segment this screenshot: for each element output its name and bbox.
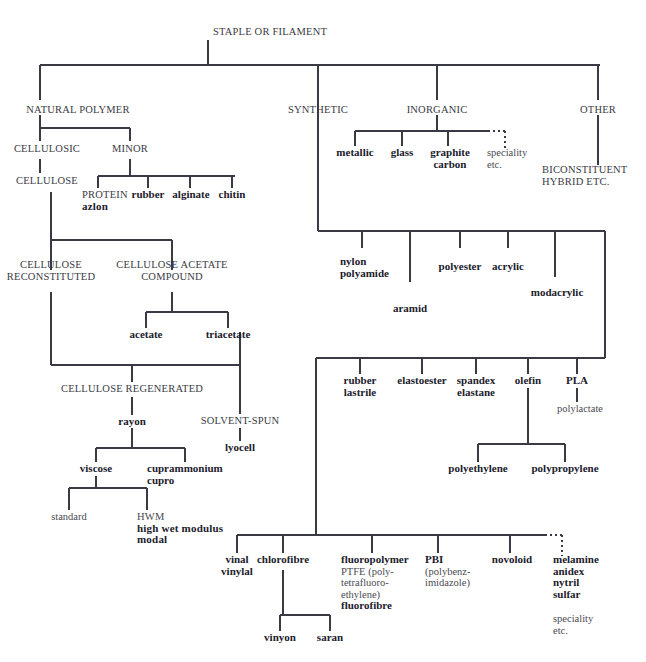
connector-lines [0,0,646,662]
node-cuprammonium[interactable]: cuprammonium cupro [147,463,223,486]
node-nylon: nylon [340,256,389,268]
node-glass[interactable]: glass [391,147,414,159]
node-other[interactable]: OTHER [580,104,616,116]
node-pla[interactable]: PLA [566,375,588,387]
node-elastane: elastane [457,387,496,399]
node-speciality-other[interactable]: speciality etc. [553,613,593,636]
node-vinal-vinylal[interactable]: vinal vinylal [221,554,253,577]
node-lyocell[interactable]: lyocell [225,442,255,454]
node-pbi-line2: imidazole) [425,577,470,589]
node-polypropylene[interactable]: polypropylene [531,463,598,475]
node-polyester[interactable]: polyester [439,261,482,273]
node-fluorofibre: fluorofibre [341,600,409,612]
node-graphite: graphite [430,147,470,159]
node-alginate[interactable]: alginate [172,189,209,201]
node-cellulose-reconstituted-line2: RECONSTITUTED [7,271,95,283]
node-vinyon[interactable]: vinyon [264,632,296,644]
node-metallic[interactable]: metallic [336,147,373,159]
node-rubber-lastrile[interactable]: rubber lastrile [344,375,377,398]
node-speciality-inorganic-line1: speciality [487,147,527,159]
node-melamine-group[interactable]: melamine anidex nytril sulfar [553,554,599,600]
node-chlorofibre[interactable]: chlorofibre [257,554,309,566]
node-elastoester[interactable]: elastoester [397,375,446,387]
node-acrylic[interactable]: acrylic [492,261,524,273]
node-hwm[interactable]: HWM high wet modulus modal [137,511,223,546]
node-melamine: melamine [553,554,599,566]
node-cuprammonium-line2: cupro [147,475,223,487]
node-standard[interactable]: standard [51,511,87,523]
node-fluoropolymer[interactable]: fluoropolymer PTFE (poly- tetrafluoro- e… [341,554,409,612]
node-fluoropolymer-label: fluoropolymer [341,554,409,566]
node-cellulosic[interactable]: CELLULOSIC [14,143,80,155]
node-cellulose-acetate-line2: COMPOUND [116,271,227,283]
node-pbi[interactable]: PBI (polybenz- imidazole) [425,554,470,589]
node-cellulose-reconstituted[interactable]: CELLULOSE RECONSTITUTED [7,259,95,282]
node-spandex-elastane[interactable]: spandex elastane [457,375,496,398]
node-pbi-label: PBI [425,554,470,566]
node-protein: PROTEIN [82,189,128,201]
node-rubber-minor[interactable]: rubber [132,189,165,201]
node-azlon: azlon [82,201,128,213]
node-saran[interactable]: saran [317,632,343,644]
node-hwm-line1: HWM [137,511,223,523]
node-rubber-synthetic: rubber [344,375,377,387]
node-speciality-other-line2: etc. [553,625,593,637]
node-biconstituent-line1: BICONSTITUENT [542,164,627,176]
node-acetate[interactable]: acetate [130,329,163,341]
node-cellulose-regenerated[interactable]: CELLULOSE REGENERATED [61,383,203,395]
node-inorganic[interactable]: INORGANIC [407,104,468,116]
fibre-classification-diagram: STAPLE OR FILAMENT NATURAL POLYMER SYNTH… [0,0,646,662]
node-hwm-line3: modal [137,534,223,546]
node-graphite-carbon[interactable]: graphite carbon [430,147,470,170]
node-polyethylene[interactable]: polyethylene [448,463,507,475]
node-spandex: spandex [457,375,496,387]
node-pbi-line1: (polybenz- [425,566,470,578]
node-synthetic[interactable]: SYNTHETIC [288,104,348,116]
node-speciality-inorganic-line2: etc. [487,159,527,171]
node-nytril: nytril [553,577,599,589]
node-cellulose-acetate-line1: CELLULOSE ACETATE [116,259,227,271]
node-speciality-inorganic[interactable]: speciality etc. [487,147,527,170]
node-protein-azlon[interactable]: PROTEIN azlon [82,189,128,212]
node-biconstituent[interactable]: BICONSTITUENT HYBRID ETC. [542,164,627,187]
node-viscose[interactable]: viscose [80,463,112,475]
node-biconstituent-line2: HYBRID ETC. [542,176,627,188]
node-ptfe-line1: PTFE (poly- [341,566,409,578]
node-cellulose-acetate-compound[interactable]: CELLULOSE ACETATE COMPOUND [116,259,227,282]
node-cellulose-reconstituted-line1: CELLULOSE [7,259,95,271]
node-root[interactable]: STAPLE OR FILAMENT [213,26,327,38]
node-cuprammonium-line1: cuprammonium [147,463,223,475]
node-vinylal: vinylal [221,566,253,578]
node-rayon[interactable]: rayon [118,416,146,428]
node-aramid[interactable]: aramid [393,303,427,315]
node-polylactate[interactable]: polylactate [557,403,603,415]
node-polyamide: polyamide [340,268,389,280]
node-triacetate[interactable]: triacetate [206,329,251,341]
node-speciality-other-line1: speciality [553,613,593,625]
node-modacrylic[interactable]: modacrylic [531,287,584,299]
node-chitin[interactable]: chitin [219,189,246,201]
node-sulfar: sulfar [553,589,599,601]
node-nylon-polyamide[interactable]: nylon polyamide [340,256,389,279]
node-carbon: carbon [430,159,470,171]
node-vinal: vinal [221,554,253,566]
node-novoloid[interactable]: novoloid [492,554,532,566]
node-lastrile: lastrile [344,387,377,399]
node-minor[interactable]: MINOR [112,143,148,155]
node-cellulose[interactable]: CELLULOSE [16,175,78,187]
node-ptfe-line2: tetrafluoro- [341,577,409,589]
node-solvent-spun[interactable]: SOLVENT-SPUN [201,415,280,427]
node-olefin[interactable]: olefin [515,375,541,387]
node-natural-polymer[interactable]: NATURAL POLYMER [26,104,129,116]
